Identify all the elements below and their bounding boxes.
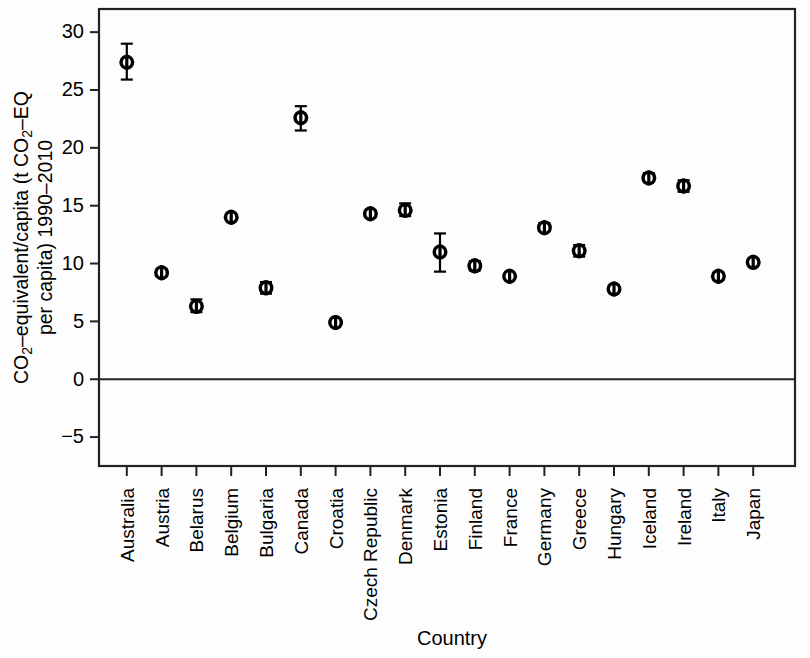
data-point-series <box>119 44 760 330</box>
y-tick-label: 30 <box>62 20 84 42</box>
data-point <box>398 203 413 218</box>
y-tick-label: 0 <box>73 368 84 390</box>
x-tick-label: Estonia <box>430 488 451 552</box>
x-tick-label: Belgium <box>221 488 242 557</box>
x-axis-ticks <box>127 466 753 476</box>
data-point <box>641 170 656 185</box>
x-tick-label: Ireland <box>674 488 695 546</box>
data-point <box>467 258 482 273</box>
data-point <box>189 299 204 314</box>
x-tick-label: Finland <box>465 488 486 550</box>
plot-frame <box>99 9 795 466</box>
data-point <box>502 269 517 284</box>
x-tick-label: Japan <box>743 488 764 540</box>
x-axis-title-label: Country <box>417 627 487 649</box>
data-point <box>363 206 378 221</box>
x-tick-label: Canada <box>291 488 312 555</box>
x-tick-label: Germany <box>534 488 555 567</box>
data-point <box>537 220 552 235</box>
x-tick-label: France <box>500 488 521 547</box>
x-tick-label: Austria <box>152 488 173 548</box>
scatter-plot-svg: 302520151050−5 AustraliaAustriaBelarusBe… <box>0 0 810 658</box>
y-tick-label: 25 <box>62 78 84 100</box>
y-tick-label: 20 <box>62 136 84 158</box>
y-axis-tick-labels: 302520151050−5 <box>61 20 84 447</box>
y-tick-label: 5 <box>73 310 84 332</box>
data-point <box>154 265 169 280</box>
x-tick-label: Belarus <box>186 488 207 552</box>
x-axis-tick-labels: AustraliaAustriaBelarusBelgiumBulgariaCa… <box>117 488 764 622</box>
x-tick-label: Italy <box>708 488 729 523</box>
x-tick-label: Hungary <box>604 488 625 560</box>
data-point <box>328 315 343 330</box>
x-tick-label: Denmark <box>395 488 416 566</box>
data-point <box>259 280 274 295</box>
y-axis-title-line: per capita) 1990–2010 <box>34 140 56 335</box>
y-axis-title-line: CO2–equivalent/capita (t CO2–EQ <box>10 91 35 384</box>
data-point <box>293 106 308 130</box>
data-point <box>572 243 587 258</box>
x-tick-label: Czech Republic <box>360 488 381 621</box>
data-point <box>676 179 691 194</box>
x-tick-label: Australia <box>117 488 138 562</box>
x-tick-label: Greece <box>569 488 590 550</box>
y-tick-label: 15 <box>62 194 84 216</box>
data-point <box>711 269 726 284</box>
y-axis-title: CO2–equivalent/capita (t CO2–EQper capit… <box>10 91 56 384</box>
data-point <box>224 210 239 225</box>
data-point <box>119 44 134 80</box>
data-point <box>433 233 448 271</box>
x-tick-label: Croatia <box>326 488 347 550</box>
data-point <box>746 255 761 270</box>
y-tick-label: 10 <box>62 252 84 274</box>
y-axis-ticks <box>90 32 99 437</box>
y-tick-label: −5 <box>61 425 84 447</box>
chart-figure: 302520151050−5 AustraliaAustriaBelarusBe… <box>0 0 810 658</box>
x-tick-label: Bulgaria <box>256 488 277 558</box>
x-tick-label: Iceland <box>639 488 660 549</box>
data-point <box>607 281 622 296</box>
